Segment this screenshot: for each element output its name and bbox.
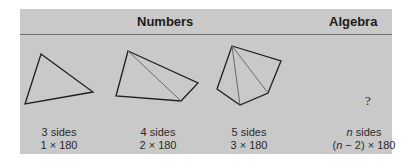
sides-label: 4 sides: [108, 126, 208, 139]
pentagon-figure: [217, 46, 281, 105]
quadrilateral-caption: 4 sides 2 × 180: [108, 126, 208, 152]
angle-sum-formula: 3 × 180: [199, 139, 299, 152]
triangle-caption: 3 sides 1 × 180: [9, 126, 109, 152]
pentagon-caption: 5 sides 3 × 180: [199, 126, 299, 152]
sides-label: n sides: [314, 126, 411, 139]
polygon-angle-sum-table: Numbers Algebra ? 3 sides 1 × 180 4 side…: [20, 9, 392, 154]
sides-label: 3 sides: [9, 126, 109, 139]
unknown-polygon-placeholder: ?: [365, 93, 371, 109]
angle-sum-formula: 1 × 180: [9, 139, 109, 152]
angle-sum-formula: 2 × 180: [108, 139, 208, 152]
triangle-figure: [25, 54, 93, 104]
sides-label: 5 sides: [199, 126, 299, 139]
n-gon-caption: n sides (n − 2) × 180: [314, 126, 411, 152]
quadrilateral-figure: [116, 51, 198, 101]
angle-sum-formula: (n − 2) × 180: [314, 139, 411, 152]
diagonal-line: [128, 51, 181, 101]
